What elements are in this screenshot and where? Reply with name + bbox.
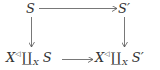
arrows-layer [0, 0, 160, 70]
